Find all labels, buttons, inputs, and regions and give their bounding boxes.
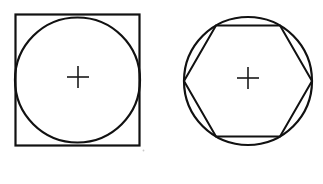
figure-circle-in-square [15, 15, 140, 146]
drawing-canvas [0, 0, 323, 184]
figure-hexagon-in-circle [184, 17, 312, 145]
center-cross [237, 67, 259, 89]
geometry-figure-svg [0, 0, 323, 184]
scan-speck [143, 150, 145, 152]
center-cross [67, 66, 89, 88]
